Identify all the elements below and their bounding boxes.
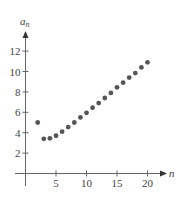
y-tick-label: 12 (10, 45, 21, 57)
data-point (139, 65, 144, 70)
data-point (90, 105, 95, 110)
y-tick-label: 8 (15, 86, 21, 98)
data-point (102, 96, 107, 101)
data-point (121, 80, 126, 85)
data-point (60, 129, 65, 134)
y-axis-arrow-icon (23, 31, 29, 38)
data-points (35, 60, 150, 141)
y-tick-label: 4 (15, 127, 21, 139)
data-point (41, 136, 46, 141)
data-point (84, 110, 89, 115)
data-point (72, 120, 77, 125)
x-axis-arrow-icon (160, 171, 167, 177)
x-tick-label: 15 (112, 177, 124, 189)
data-point (133, 71, 138, 76)
data-point (78, 115, 83, 120)
x-tick-label: 10 (81, 177, 93, 189)
data-point (115, 85, 120, 90)
scatter-chart: n an 5101520 24681012 (0, 0, 184, 197)
data-point (54, 133, 59, 138)
data-point (145, 60, 150, 65)
data-point (127, 75, 132, 80)
axes: n an (15, 15, 175, 186)
x-tick-label: 20 (142, 177, 154, 189)
data-point (109, 91, 114, 96)
y-tick-label: 2 (15, 147, 21, 159)
y-tick-label: 6 (15, 106, 21, 118)
data-point (66, 125, 71, 130)
y-axis-label: an (20, 15, 30, 29)
data-point (96, 101, 101, 106)
y-tick-label: 10 (10, 66, 22, 78)
data-point (35, 120, 40, 125)
x-axis-label: n (169, 167, 175, 179)
x-tick-label: 5 (53, 177, 59, 189)
data-point (48, 136, 53, 141)
